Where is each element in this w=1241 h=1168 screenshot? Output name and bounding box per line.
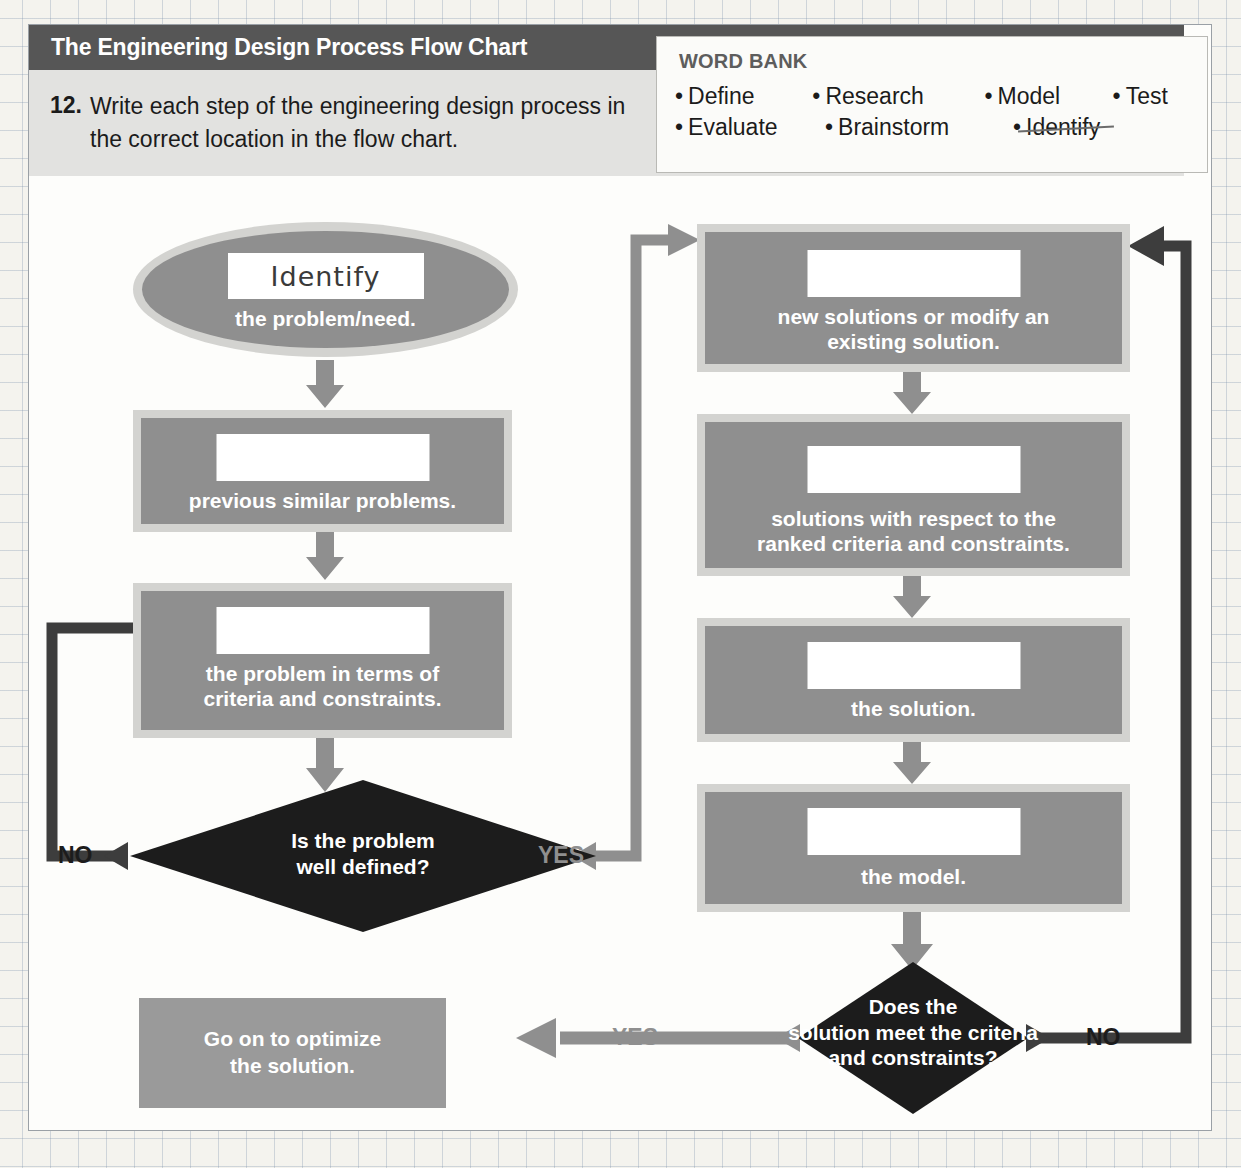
decision1-yes-label: YES xyxy=(538,842,584,869)
start-answer-text: Identify xyxy=(271,261,381,292)
start-node-identify[interactable]: Identify the problem/need. xyxy=(133,222,518,357)
model-answer-blank[interactable] xyxy=(807,642,1020,689)
yes-path-arrowhead-icon xyxy=(668,224,700,256)
decision1-caption: Is the problem well defined? xyxy=(130,828,596,879)
process-node-body: new solutions or modify an existing solu… xyxy=(705,232,1122,364)
flow-chart: Identify the problem/need. previous simi… xyxy=(0,0,1241,1168)
end-caption: Go on to optimize the solution. xyxy=(204,1026,381,1080)
yes2-arrowhead-icon xyxy=(516,1018,556,1058)
process-node-define[interactable]: the problem in terms of criteria and con… xyxy=(133,583,512,738)
start-node-body: Identify the problem/need. xyxy=(142,231,509,348)
decision2-no-label: NO xyxy=(1086,1024,1121,1051)
arrow-brainstorm-to-evaluate xyxy=(893,372,931,414)
process-node-body: solutions with respect to the ranked cri… xyxy=(705,422,1122,568)
process-node-model[interactable]: the solution. xyxy=(697,618,1130,742)
process-node-body: the problem in terms of criteria and con… xyxy=(141,591,504,730)
start-answer-blank[interactable]: Identify xyxy=(228,253,424,299)
process-node-evaluate[interactable]: solutions with respect to the ranked cri… xyxy=(697,414,1130,576)
no-loop-tail-arrow-icon xyxy=(104,842,128,870)
decision-node-well-defined[interactable]: Is the problem well defined? xyxy=(130,780,596,932)
arrow-model-to-test xyxy=(893,742,931,784)
decision2-yes-label: YES xyxy=(612,1024,658,1051)
start-caption: the problem/need. xyxy=(142,307,509,331)
evaluate-answer-blank[interactable] xyxy=(807,446,1020,493)
research-answer-blank[interactable] xyxy=(216,434,429,481)
arrow-research-to-define xyxy=(306,532,344,580)
process-node-brainstorm[interactable]: new solutions or modify an existing solu… xyxy=(697,224,1130,372)
decision-node-meets-criteria[interactable]: Does the solution meet the criteria and … xyxy=(798,962,1028,1114)
process-node-research[interactable]: previous similar problems. xyxy=(133,410,512,532)
test-caption: the model. xyxy=(705,864,1122,889)
arrow-evaluate-to-model xyxy=(893,576,931,618)
yes-path-right xyxy=(596,240,672,856)
no2-arrowhead-icon xyxy=(1128,226,1164,266)
brainstorm-answer-blank[interactable] xyxy=(807,250,1020,297)
model-caption: the solution. xyxy=(705,696,1122,721)
arrow-start-to-research xyxy=(306,360,344,408)
decision2-caption: Does the solution meet the criteria and … xyxy=(720,994,1106,1071)
process-node-body: the solution. xyxy=(705,626,1122,734)
process-node-body: previous similar problems. xyxy=(141,418,504,524)
process-node-test[interactable]: the model. xyxy=(697,784,1130,912)
define-caption: the problem in terms of criteria and con… xyxy=(141,661,504,711)
research-caption: previous similar problems. xyxy=(141,488,504,513)
end-node-optimize[interactable]: Go on to optimize the solution. xyxy=(139,998,446,1108)
decision1-no-label: NO xyxy=(58,842,93,869)
process-node-body: the model. xyxy=(705,792,1122,904)
test-answer-blank[interactable] xyxy=(807,808,1020,855)
define-answer-blank[interactable] xyxy=(216,607,429,654)
evaluate-caption: solutions with respect to the ranked cri… xyxy=(705,506,1122,556)
brainstorm-caption: new solutions or modify an existing solu… xyxy=(705,304,1122,354)
